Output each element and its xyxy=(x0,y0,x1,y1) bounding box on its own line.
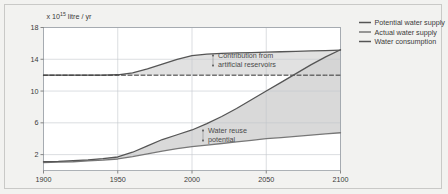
legend-label-2: Actual water supply xyxy=(375,28,438,37)
y-tick-label: 2 xyxy=(35,150,39,159)
y-axis-unit-label: x 1015 litre / yr xyxy=(47,11,93,21)
y-tick-label: 10 xyxy=(31,87,39,96)
x-tick-label: 1950 xyxy=(110,175,126,184)
y-tick-label: 18 xyxy=(31,23,39,32)
x-tick-label: 2000 xyxy=(184,175,200,184)
x-tick-label: 1900 xyxy=(36,175,52,184)
chart-figure: 1814106219001950200020502100x 1015 litre… xyxy=(0,0,448,194)
legend-label-3: Water consumption xyxy=(375,37,437,46)
annotation-water-reuse-line2: potential xyxy=(208,135,236,144)
y-tick-label: 6 xyxy=(35,118,39,127)
y-tick-label: 14 xyxy=(31,55,39,64)
legend-label-1: Potential water supply xyxy=(375,18,446,27)
x-tick-label: 2100 xyxy=(333,175,349,184)
annotation-reservoirs-line2: artificial reservoirs xyxy=(218,60,276,69)
x-tick-label: 2050 xyxy=(258,175,274,184)
water-supply-chart: 1814106219001950200020502100x 1015 litre… xyxy=(0,0,448,194)
